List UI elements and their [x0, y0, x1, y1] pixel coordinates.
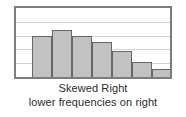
bar — [32, 36, 52, 77]
bar — [152, 69, 172, 77]
bar — [112, 51, 132, 77]
bar — [72, 36, 92, 77]
caption-subtitle: lower frequencies on right — [0, 95, 186, 109]
bar — [132, 62, 152, 77]
bars-group — [16, 8, 170, 77]
caption-title: Skewed Right — [0, 81, 186, 95]
caption-block: Skewed Right lower frequencies on right — [0, 81, 186, 109]
plot-area — [14, 6, 172, 79]
bar — [92, 42, 112, 77]
bar — [52, 30, 72, 77]
histogram-figure: Skewed Right lower frequencies on right — [0, 0, 186, 117]
